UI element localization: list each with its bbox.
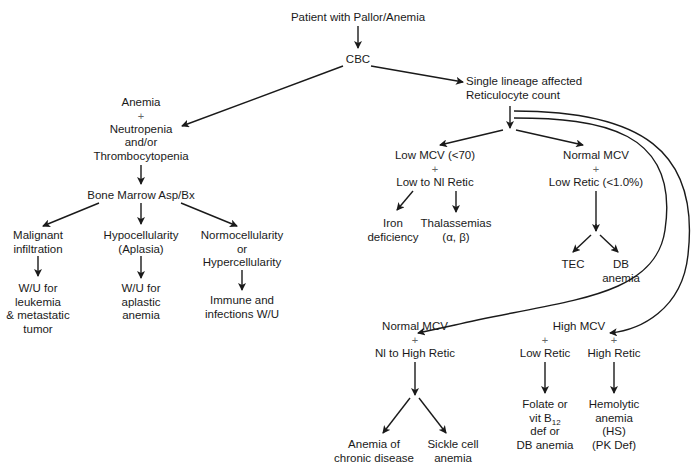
node-high-retic: + High Retic (587, 334, 640, 361)
node-label: Iron (367, 217, 418, 231)
node-folate-b12: Folate or vit B12 def or DB anemia (517, 398, 574, 452)
node-label: CBC (346, 53, 370, 67)
node-label: Sickle cell (427, 438, 478, 452)
node-label: chronic disease (334, 452, 414, 466)
edge-split-db (600, 235, 618, 252)
edge-bm-malignant (43, 203, 99, 226)
node-wu-aplastic: W/U for aplastic anemia (122, 282, 161, 323)
node-label: Low Retic (<1.0%) (549, 176, 643, 190)
plus-sign: + (520, 334, 571, 347)
node-label: Folate or (517, 398, 574, 412)
node-single-lineage: Single lineage affected Reticulocyte cou… (466, 75, 582, 102)
edge-bm-normo (181, 203, 237, 226)
node-label: High Retic (587, 347, 640, 361)
node-label: anemia (589, 412, 639, 426)
node-normal-mcv-high-retic: Normal MCV + Nl to High Retic (375, 320, 455, 360)
node-label: Single lineage affected (466, 75, 582, 89)
edge-lowmcv-iron (397, 191, 413, 210)
node-low-retic: + Low Retic (520, 334, 571, 361)
node-bone-marrow: Bone Marrow Asp/Bx (87, 189, 194, 203)
plus-sign: + (395, 163, 475, 176)
node-tec: TEC (562, 258, 585, 272)
node-thalassemias: Thalassemias (α, β) (421, 217, 492, 244)
node-label: W/U for (6, 282, 69, 296)
node-label: (α, β) (421, 231, 492, 245)
node-high-mcv: High MCV (553, 320, 605, 334)
node-label: High MCV (553, 320, 605, 334)
node-label: Bone Marrow Asp/Bx (87, 189, 194, 203)
node-label: Immune and (205, 294, 279, 308)
node-label: (HS) (589, 425, 639, 439)
edge-single-highmcv (514, 111, 690, 333)
edge-cbc-single (371, 66, 463, 82)
node-label: def or (517, 425, 574, 439)
node-sickle-cell-anemia: Sickle cell anemia (427, 438, 478, 465)
node-label: infections W/U (205, 308, 279, 322)
plus-sign: + (549, 163, 643, 176)
edge-single-lowmcv (440, 130, 503, 145)
node-label: anemia (122, 309, 161, 323)
node-label: Hypercellularity (201, 256, 283, 270)
node-label: Normal MCV (375, 320, 455, 334)
node-label: Anemia (93, 96, 188, 110)
node-label: (Aplasia) (104, 243, 179, 257)
node-label: tumor (6, 323, 69, 337)
node-label: DB (602, 258, 640, 272)
node-label: Nl to High Retic (375, 347, 455, 361)
plus-sign: + (587, 334, 640, 347)
node-anemia-chronic-disease: Anemia of chronic disease (334, 438, 414, 465)
anemia-workup-flowchart: Patient with Pallor/Anemia CBC Single li… (0, 0, 696, 466)
vit-b-text: vit B (529, 412, 551, 424)
edge-cbc-multi (182, 66, 343, 126)
node-label: Reticulocyte count (466, 89, 582, 103)
node-multi-lineage: Anemia + Neutropenia and/or Thrombocytop… (93, 96, 188, 163)
node-label: Hypocellularity (104, 229, 179, 243)
node-label: Hemolytic (589, 398, 639, 412)
node-label: anemia (427, 452, 478, 466)
node-db-anemia: DB anemia (602, 258, 640, 285)
node-label: aplastic (122, 296, 161, 310)
node-label: Low MCV (<70) (395, 149, 475, 163)
node-label: infiltration (13, 243, 63, 257)
node-label: Thrombocytopenia (93, 150, 188, 164)
node-hypocellularity: Hypocellularity (Aplasia) (104, 229, 179, 256)
node-immune-wu: Immune and infections W/U (205, 294, 279, 321)
node-label: Low to Nl Retic (395, 176, 475, 190)
node-label: Malignant (13, 229, 63, 243)
node-malignant-infiltration: Malignant infiltration (13, 229, 63, 256)
node-label: Neutropenia (93, 123, 188, 137)
edge-nmh-sickle (419, 398, 446, 433)
node-label: Normal MCV (549, 149, 643, 163)
plus-sign: + (93, 110, 188, 123)
node-label: Normocellularity (201, 229, 283, 243)
node-label: or (201, 243, 283, 257)
node-label: Patient with Pallor/Anemia (291, 11, 425, 25)
node-label: leukemia (6, 296, 69, 310)
node-label: TEC (562, 258, 585, 272)
node-label: and/or (93, 136, 188, 150)
node-label: & metastatic (6, 309, 69, 323)
node-iron-deficiency: Iron deficiency (367, 217, 418, 244)
node-hemolytic-anemia: Hemolytic anemia (HS) (PK Def) (589, 398, 639, 452)
node-normal-mcv-low-retic: Normal MCV + Low Retic (<1.0%) (549, 149, 643, 189)
node-cbc: CBC (346, 53, 370, 67)
edge-single-normalmcv (516, 130, 583, 145)
node-label: (PK Def) (589, 439, 639, 453)
node-label: deficiency (367, 231, 418, 245)
node-label-b12: vit B12 (517, 412, 574, 426)
edge-split-tec (573, 235, 591, 252)
node-label: anemia (602, 272, 640, 286)
plus-sign: + (375, 334, 455, 347)
node-label: DB anemia (517, 439, 574, 453)
node-wu-leukemia: W/U for leukemia & metastatic tumor (6, 282, 69, 336)
node-label: Anemia of (334, 438, 414, 452)
edge-nmh-anemia (383, 398, 410, 433)
node-patient-pallor: Patient with Pallor/Anemia (291, 11, 425, 25)
node-label: Low Retic (520, 347, 571, 361)
node-label: Thalassemias (421, 217, 492, 231)
node-label: W/U for (122, 282, 161, 296)
node-normocellularity: Normocellularity or Hypercellularity (201, 229, 283, 270)
node-low-mcv: Low MCV (<70) + Low to Nl Retic (395, 149, 475, 189)
